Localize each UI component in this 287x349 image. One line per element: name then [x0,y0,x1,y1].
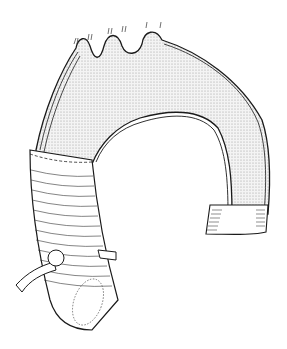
aortic-arch-illustration [0,0,287,349]
illustration-canvas [0,0,287,349]
descending-aorta-end [206,205,268,235]
tubular-graft [30,150,118,330]
